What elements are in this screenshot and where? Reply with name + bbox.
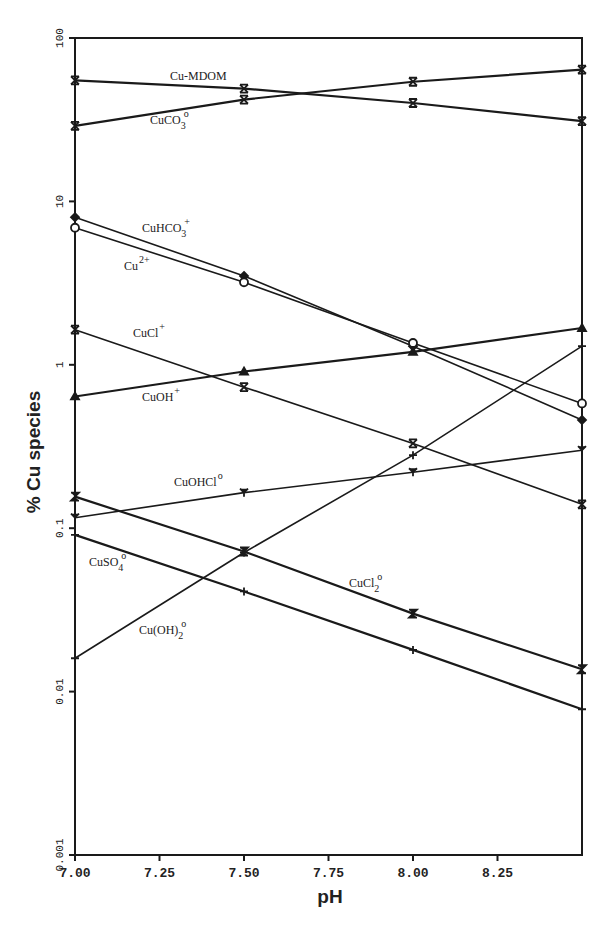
plot-frame (75, 38, 582, 855)
series-label: Cu2+ (124, 254, 150, 273)
x-tick-label: 7.50 (228, 866, 259, 881)
plus-marker-icon (71, 531, 79, 539)
series-label: CuOH+ (142, 385, 180, 404)
diamond-marker-icon (71, 213, 79, 221)
series-label: CuHCO3+ (142, 216, 190, 239)
plus-icon (578, 705, 586, 713)
plus-marker-icon (578, 342, 586, 350)
x-cross-icon (409, 439, 417, 447)
triangle-icon (578, 324, 586, 331)
circle-open-marker-icon (71, 224, 79, 232)
series-label: CuCl+ (133, 321, 165, 340)
plus-icon (240, 587, 248, 595)
circle-icon (71, 224, 79, 232)
series-line-7 (75, 497, 582, 670)
triangle-marker-icon (409, 348, 417, 355)
plus-icon (409, 451, 417, 459)
y-tick-label: 100 (54, 28, 66, 48)
chart: 1001010.10.010.001 7.007.257.507.758.008… (0, 0, 602, 927)
y-tick-label: 0.01 (54, 678, 66, 705)
circle-icon (240, 278, 248, 286)
triangle-marker-icon (240, 367, 248, 374)
y-axis-title: % Cu species (23, 391, 44, 514)
y-axis: 1001010.10.010.001 (54, 28, 75, 871)
series-line-6 (75, 450, 582, 517)
plus-marker-icon (71, 654, 79, 662)
x-tick-label: 7.00 (59, 866, 90, 881)
series-label: CuCl2o (349, 571, 382, 594)
diamond-marker-icon (578, 416, 586, 424)
y-tick-label: 10 (54, 195, 66, 208)
x-cross-marker-icon (240, 383, 248, 391)
plus-icon (71, 654, 79, 662)
circle-open-marker-icon (578, 399, 586, 407)
series-line-4 (75, 330, 582, 505)
x-tick-label: 7.25 (144, 866, 175, 881)
circle-open-marker-icon (409, 339, 417, 347)
plot-border (75, 38, 582, 855)
plus-icon (409, 646, 417, 654)
triangle-marker-icon (578, 324, 586, 331)
series-label: CuSO4o (89, 550, 126, 573)
triangle-marker-icon (71, 392, 79, 399)
series-label: Cu-MDOM (170, 69, 227, 83)
plus-marker-icon (409, 451, 417, 459)
circle-icon (409, 339, 417, 347)
triangle-icon (240, 367, 248, 374)
y-tick-label: 1 (54, 361, 66, 368)
x-cross-icon (240, 383, 248, 391)
series-label: CuOHClo (174, 470, 223, 489)
x-axis-title: pH (317, 886, 342, 907)
plus-icon (71, 531, 79, 539)
plus-marker-icon (409, 646, 417, 654)
series-line-3 (75, 228, 582, 404)
diamond-icon (578, 416, 586, 424)
x-cross-marker-icon (409, 439, 417, 447)
triangle-icon (409, 348, 417, 355)
x-tick-label: 8.00 (397, 866, 428, 881)
x-tick-label: 7.75 (313, 866, 344, 881)
circle-open-marker-icon (240, 278, 248, 286)
plus-marker-icon (240, 587, 248, 595)
series-label: Cu(OH)2o (139, 618, 186, 641)
diamond-icon (71, 213, 79, 221)
x-tick-label: 8.25 (482, 866, 513, 881)
x-axis: 7.007.257.507.758.008.25 (59, 855, 513, 881)
y-tick-label: 0.1 (54, 518, 66, 538)
circle-icon (578, 399, 586, 407)
triangle-icon (71, 392, 79, 399)
plus-icon (578, 342, 586, 350)
plus-marker-icon (578, 705, 586, 713)
